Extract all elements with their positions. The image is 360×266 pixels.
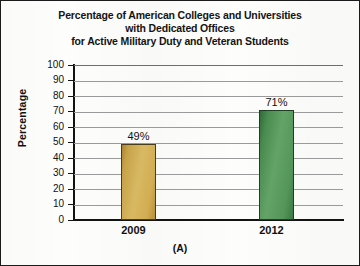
gridline [74, 96, 343, 97]
figure-caption: (A) [1, 242, 359, 254]
bar-2009[interactable]: 49% [121, 144, 156, 220]
y-tick-label: 10 [34, 198, 64, 209]
gridline [74, 205, 343, 206]
y-tick-label: 90 [34, 74, 64, 85]
bar-value-label: 71% [265, 96, 287, 108]
y-tick-label: 100 [34, 59, 64, 70]
y-tick-label: 80 [34, 90, 64, 101]
plot-area: 49% 71% [74, 65, 343, 220]
gridline [74, 158, 343, 159]
gridline [74, 174, 343, 175]
chart-figure: Percentage of American Colleges and Univ… [0, 0, 360, 266]
y-tick-label: 20 [34, 183, 64, 194]
y-tick-label: 60 [34, 121, 64, 132]
y-axis-title: Percentage [16, 73, 28, 163]
y-tick-label: 50 [34, 136, 64, 147]
gridlines [74, 65, 343, 220]
y-tick-label: 0 [34, 214, 64, 225]
gridline [74, 189, 343, 190]
x-axis-category-label-2009: 2009 [101, 224, 166, 236]
gridline [74, 81, 343, 82]
y-tick-label: 70 [34, 105, 64, 116]
gridline [74, 143, 343, 144]
bar-value-label: 49% [127, 130, 149, 142]
bar-2012[interactable]: 71% [259, 110, 294, 220]
y-tick-label: 30 [34, 167, 64, 178]
y-axis-tick-labels: 100 90 80 70 60 50 40 30 20 10 0 [32, 1, 64, 266]
y-tick-label: 40 [34, 152, 64, 163]
gridline [74, 65, 343, 66]
gridline [74, 112, 343, 113]
x-axis-category-label-2012: 2012 [239, 224, 304, 236]
gridline [74, 127, 343, 128]
